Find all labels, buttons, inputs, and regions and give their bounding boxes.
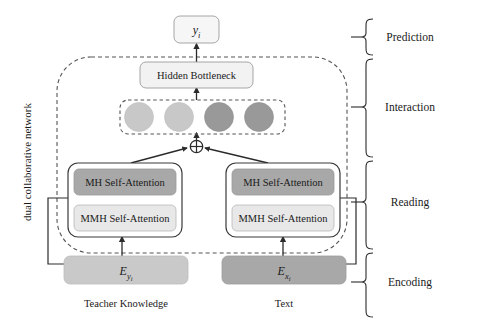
right-branch-to-fusion-line xyxy=(205,148,268,163)
stage-label-interaction: Interaction xyxy=(385,101,435,113)
interaction-token-2 xyxy=(165,103,194,132)
interaction-token-1 xyxy=(125,103,154,132)
right-branch-caption: Text xyxy=(275,298,294,309)
left-encoding-subsub: i xyxy=(131,275,133,282)
left-branch-group: MH Self-Attention MMH Self-Attention xyxy=(68,163,182,237)
left-branch-to-fusion-line xyxy=(131,148,187,163)
stage-bracket-prediction xyxy=(351,19,373,55)
stage-bracket-reading xyxy=(351,161,373,249)
diagram-svg: MH Self-Attention MMH Self-Attention MH … xyxy=(0,0,481,332)
right-branch-group: MH Self-Attention MMH Self-Attention xyxy=(226,163,340,237)
right-mh-self-attention-label: MH Self-Attention xyxy=(243,177,323,188)
left-encoding-group: Eyi xyxy=(64,256,188,284)
stage-bracket-encoding xyxy=(351,253,373,317)
left-mh-self-attention-label: MH Self-Attention xyxy=(85,177,165,188)
stage-label-prediction: Prediction xyxy=(386,31,434,43)
stage-label-reading: Reading xyxy=(391,196,430,209)
left-mmh-self-attention-label: MMH Self-Attention xyxy=(81,213,171,224)
hidden-bottleneck-group: Hidden Bottleneck xyxy=(140,62,253,88)
interaction-token-4 xyxy=(245,103,274,132)
left-branch-caption: Teacher Knowledge xyxy=(84,298,168,309)
prediction-output-group: yi xyxy=(174,16,219,43)
right-encoding-subsub: i xyxy=(289,275,291,282)
right-mmh-self-attention-label: MMH Self-Attention xyxy=(239,213,329,224)
stage-label-encoding: Encoding xyxy=(388,276,432,289)
dual-network-side-label: dual collaborative network xyxy=(21,103,33,221)
fusion-node xyxy=(190,140,202,152)
right-encoding-group: Exi xyxy=(222,256,346,284)
hidden-bottleneck-label: Hidden Bottleneck xyxy=(157,70,237,81)
interaction-token-3 xyxy=(205,103,234,132)
stage-bracket-interaction xyxy=(351,59,373,157)
figure-canvas: MH Self-Attention MMH Self-Attention MH … xyxy=(0,0,481,332)
